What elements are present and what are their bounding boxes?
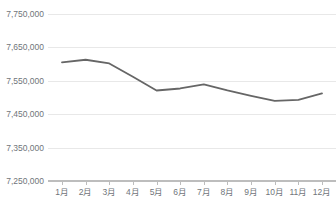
- x-axis-tick-label: 1月: [55, 185, 69, 197]
- y-axis-tick-label: 7,650,000: [6, 42, 44, 52]
- x-axis-tick-label: 4月: [126, 185, 140, 197]
- series-line: [48, 14, 336, 181]
- x-axis-tick-label: 8月: [221, 185, 235, 197]
- series-polyline: [62, 60, 322, 101]
- y-axis-labels: 7,750,0007,650,0007,550,0007,450,0007,35…: [0, 14, 44, 181]
- x-axis-tick-label: 6月: [173, 185, 187, 197]
- y-axis-tick-label: 7,450,000: [6, 109, 44, 119]
- y-axis-tick-label: 7,750,000: [6, 9, 44, 19]
- x-axis-tick-label: 7月: [197, 185, 211, 197]
- gridline: [48, 181, 336, 182]
- line-chart: 7,750,0007,650,0007,550,0007,450,0007,35…: [0, 0, 336, 203]
- y-axis-tick-label: 7,550,000: [6, 76, 44, 86]
- x-axis-tick-label: 9月: [244, 185, 258, 197]
- x-axis-tick-label: 2月: [79, 185, 93, 197]
- x-axis-tick-label: 12月: [313, 185, 331, 197]
- x-axis-tick-label: 3月: [102, 185, 116, 197]
- x-axis-labels: 1月2月3月4月5月6月7月8月9月10月11月12月: [0, 185, 336, 201]
- x-axis-tick-label: 10月: [265, 185, 283, 197]
- plot-area: [48, 14, 336, 181]
- y-axis-tick-label: 7,350,000: [6, 143, 44, 153]
- chart-title-strip: [0, 0, 336, 5]
- x-axis-tick-label: 5月: [150, 185, 164, 197]
- x-axis-tick-label: 11月: [289, 185, 307, 197]
